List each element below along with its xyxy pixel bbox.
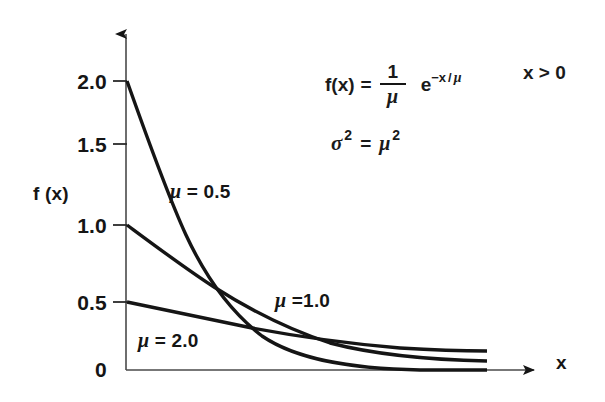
plot-canvas — [0, 0, 605, 402]
sigma-exponent: 2 — [342, 127, 352, 143]
equals-sign: = — [187, 181, 198, 202]
exponential-base: e — [414, 74, 432, 96]
x-axis-label: x — [556, 352, 567, 374]
exponent-mu: μ — [454, 70, 462, 85]
fraction-denominator: μ — [387, 85, 398, 107]
mu-value: 1.0 — [303, 290, 330, 311]
mu-value: 0.5 — [204, 181, 231, 202]
sigma-symbol: σ — [331, 131, 342, 156]
mu-symbol: μ — [379, 132, 390, 155]
exponential-distribution-figure: 2.0 1.5 1.0 0.5 0 f (x) x μ = 0.5 μ =1.0… — [0, 0, 605, 402]
formula-lhs: f(x) — [325, 74, 355, 96]
curve-mu-0-5 — [127, 81, 487, 370]
fraction-numerator: 1 — [387, 62, 398, 83]
pdf-formula: f(x) = 1 μ e −x/μ — [325, 62, 462, 107]
mu-symbol: μ — [275, 289, 286, 311]
domain-condition: x > 0 — [523, 62, 566, 84]
y-tick-label-0: 0 — [55, 358, 107, 382]
mu-value: 2.0 — [172, 330, 199, 351]
y-tick-label-1-0: 1.0 — [55, 214, 107, 238]
variance-equals: = — [352, 133, 379, 155]
exponent-x: x — [439, 70, 446, 85]
y-axis-label: f (x) — [33, 183, 69, 205]
curve-label-mu-1-0: μ =1.0 — [275, 289, 330, 312]
curve-label-mu-2-0: μ = 2.0 — [138, 329, 199, 352]
formula-equals: = — [355, 74, 372, 96]
mu-symbol: μ — [138, 329, 149, 351]
exponent-group: −x/μ — [431, 70, 461, 86]
variance-formula: σ2 = μ2 — [331, 131, 400, 156]
exponent-minus: − — [431, 70, 439, 85]
y-tick-label-1-5: 1.5 — [55, 133, 107, 157]
y-tick-label-0-5: 0.5 — [55, 291, 107, 315]
one-over-mu-fraction: 1 μ — [380, 62, 406, 107]
curve-label-mu-0-5: μ = 0.5 — [170, 180, 231, 203]
equals-sign: = — [155, 330, 166, 351]
mu-symbol: μ — [170, 180, 181, 202]
y-tick-label-2-0: 2.0 — [55, 70, 107, 94]
y-axis-ticks — [113, 81, 127, 302]
mu-exponent: 2 — [390, 127, 400, 143]
exponent-slash: / — [446, 70, 454, 85]
equals-sign: = — [292, 290, 303, 311]
